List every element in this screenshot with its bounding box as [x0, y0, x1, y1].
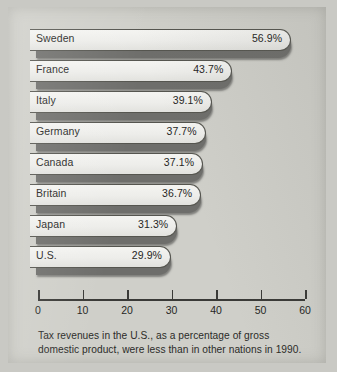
x-axis-tick	[305, 290, 307, 299]
bar[interactable]: Sweden56.9%	[30, 29, 291, 51]
bar-row: Britain36.7%	[30, 184, 318, 215]
bar[interactable]: France43.7%	[30, 60, 232, 82]
bar-value-label: 37.7%	[166, 125, 196, 137]
bar-value-label: 36.7%	[162, 187, 192, 199]
x-axis-tick	[127, 290, 129, 299]
x-axis-tick	[172, 290, 174, 299]
bar-category-label: Japan	[36, 218, 65, 230]
bar-category-label: Canada	[36, 156, 73, 168]
bar-value-label: 39.1%	[173, 94, 203, 106]
chart-panel: Sweden56.9%France43.7%Italy39.1%Germany3…	[8, 7, 326, 363]
bar[interactable]: Britain36.7%	[30, 184, 201, 206]
bar-category-label: France	[36, 63, 69, 75]
bar[interactable]: U.S.29.9%	[30, 246, 171, 268]
bar[interactable]: Canada37.1%	[30, 153, 203, 175]
bar[interactable]: Italy39.1%	[30, 91, 212, 113]
bar-category-label: Germany	[36, 125, 80, 137]
bar-value-label: 37.1%	[164, 156, 194, 168]
plot-area: Sweden56.9%France43.7%Italy39.1%Germany3…	[30, 29, 318, 291]
x-axis-tick-label: 40	[210, 304, 222, 316]
bar-row: Canada37.1%	[30, 153, 318, 184]
bar[interactable]: Germany37.7%	[30, 122, 206, 144]
x-axis-tick-label: 50	[255, 304, 267, 316]
bar-row: France43.7%	[30, 60, 318, 91]
x-axis-tick-label: 10	[77, 304, 89, 316]
x-axis-tick-label: 30	[166, 304, 178, 316]
x-axis: 0102030405060	[30, 295, 318, 325]
x-axis-tick	[83, 290, 85, 299]
bar-category-label: U.S.	[36, 249, 57, 261]
chart-figure: Sweden56.9%France43.7%Italy39.1%Germany3…	[0, 0, 337, 372]
x-axis-tick	[261, 290, 263, 299]
x-axis-tick-label: 20	[121, 304, 133, 316]
bar-value-label: 43.7%	[193, 63, 223, 75]
bar-value-label: 29.9%	[132, 249, 162, 261]
bar-row: Japan31.3%	[30, 215, 318, 246]
x-axis-tick-label: 60	[299, 304, 311, 316]
bar-row: Italy39.1%	[30, 91, 318, 122]
bar-row: U.S.29.9%	[30, 246, 318, 277]
bar-category-label: Sweden	[36, 32, 75, 44]
chart-caption: Tax revenues in the U.S., as a percentag…	[38, 329, 306, 356]
bar-category-label: Italy	[36, 94, 56, 106]
bar-value-label: 56.9%	[252, 32, 282, 44]
bar-value-label: 31.3%	[138, 218, 168, 230]
bar-row: Germany37.7%	[30, 122, 318, 153]
bar-category-label: Britain	[36, 187, 66, 199]
x-axis-line	[38, 299, 305, 301]
bar-row: Sweden56.9%	[30, 29, 318, 60]
x-axis-tick	[216, 290, 218, 299]
bar[interactable]: Japan31.3%	[30, 215, 177, 237]
x-axis-tick-label: 0	[35, 304, 41, 316]
x-axis-tick	[38, 290, 40, 299]
